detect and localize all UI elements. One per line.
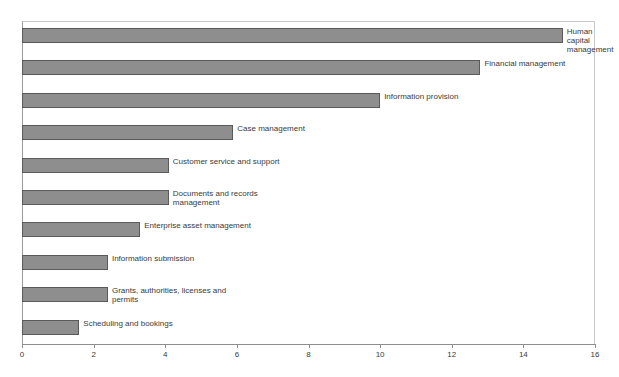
bar bbox=[22, 255, 108, 270]
bar-row: Financial management bbox=[22, 60, 595, 75]
bar-label: Grants, authorities, licenses and permit… bbox=[108, 286, 226, 304]
bar-row: Scheduling and bookings bbox=[22, 320, 595, 335]
bars-layer: Human capital managementFinancial manage… bbox=[0, 0, 619, 377]
bar-row: Customer service and support bbox=[22, 158, 595, 173]
bar bbox=[22, 287, 108, 302]
bar bbox=[22, 158, 169, 173]
bar-row: Human capital management bbox=[22, 28, 595, 43]
bar-label: Information submission bbox=[108, 254, 194, 263]
x-tick-mark bbox=[380, 344, 381, 348]
bar-label: Documents and records management bbox=[169, 189, 258, 207]
x-tick-label: 12 bbox=[447, 350, 456, 359]
x-axis-ticks: 0246810121416 bbox=[0, 344, 619, 368]
x-tick-mark bbox=[595, 344, 596, 348]
bar bbox=[22, 60, 480, 75]
bar-label: Information provision bbox=[380, 92, 458, 101]
bar bbox=[22, 190, 169, 205]
bar-label: Scheduling and bookings bbox=[79, 319, 172, 328]
bar-label: Case management bbox=[233, 124, 305, 133]
x-tick-mark bbox=[165, 344, 166, 348]
x-tick-label: 14 bbox=[519, 350, 528, 359]
x-tick-mark bbox=[309, 344, 310, 348]
bar bbox=[22, 222, 140, 237]
x-tick-label: 10 bbox=[376, 350, 385, 359]
bar-chart: Human capital managementFinancial manage… bbox=[0, 0, 619, 377]
bar bbox=[22, 93, 380, 108]
x-tick-mark bbox=[452, 344, 453, 348]
bar bbox=[22, 320, 79, 335]
x-tick-label: 16 bbox=[591, 350, 600, 359]
x-tick-label: 6 bbox=[235, 350, 239, 359]
bar-label: Customer service and support bbox=[169, 157, 280, 166]
bar-row: Information provision bbox=[22, 93, 595, 108]
bar-row: Case management bbox=[22, 125, 595, 140]
bar-label: Human capital management bbox=[563, 27, 614, 54]
x-tick-mark bbox=[94, 344, 95, 348]
bar bbox=[22, 125, 233, 140]
bar-row: Grants, authorities, licenses and permit… bbox=[22, 287, 595, 302]
bar bbox=[22, 28, 563, 43]
x-tick-label: 0 bbox=[20, 350, 24, 359]
x-tick-mark bbox=[22, 344, 23, 348]
bar-label: Enterprise asset management bbox=[140, 221, 251, 230]
x-tick-label: 2 bbox=[91, 350, 95, 359]
x-tick-label: 4 bbox=[163, 350, 167, 359]
bar-row: Documents and records management bbox=[22, 190, 595, 205]
bar-row: Enterprise asset management bbox=[22, 222, 595, 237]
bar-label: Financial management bbox=[480, 59, 565, 68]
bar-row: Information submission bbox=[22, 255, 595, 270]
x-tick-label: 8 bbox=[306, 350, 310, 359]
x-tick-mark bbox=[237, 344, 238, 348]
x-tick-mark bbox=[523, 344, 524, 348]
